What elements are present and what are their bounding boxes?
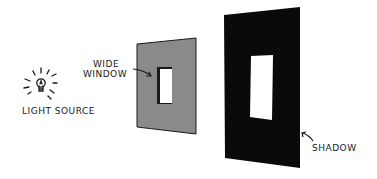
- shadow-pointer-arrow: [303, 133, 313, 141]
- window-opening: [160, 69, 172, 103]
- wide-window-label-line2: WINDOW: [76, 69, 134, 79]
- wall-panel: [137, 38, 196, 134]
- shadow-light-opening: [250, 55, 273, 120]
- light-source-label: LIGHT SOURCE: [22, 106, 95, 116]
- diagram-canvas: LIGHT SOURCE WIDE WINDOW SHADOW: [0, 0, 377, 179]
- wide-window-label-line1: WIDE: [78, 59, 134, 69]
- shadow-panel: [224, 7, 300, 168]
- light-bulb-icon: [24, 68, 57, 99]
- shadow-label: SHADOW: [312, 143, 357, 153]
